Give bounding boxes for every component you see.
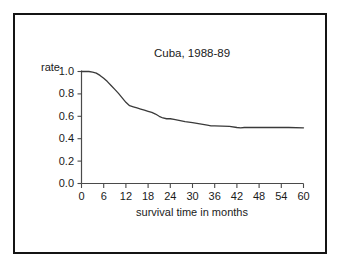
y-tick-label-2: 0.4 xyxy=(59,132,74,144)
survival-curve-line xyxy=(82,72,304,128)
x-tick-label-6: 36 xyxy=(209,190,221,202)
x-tick-label-4: 24 xyxy=(164,190,176,202)
y-tick-label-0: 0.0 xyxy=(59,177,74,189)
x-tick-label-1: 6 xyxy=(101,190,107,202)
chart-title: Cuba, 1988-89 xyxy=(154,47,230,59)
x-axis-label: survival time in months xyxy=(136,206,248,218)
x-tick-label-5: 30 xyxy=(186,190,198,202)
y-tick-label-3: 0.6 xyxy=(59,110,74,122)
y-axis-label: rate xyxy=(41,61,60,73)
x-axis-ticks xyxy=(82,184,304,189)
figure-root: Cuba, 1988-89 rate 0.0 0.2 0.4 0.6 0.8 1… xyxy=(0,0,343,269)
survival-curve-chart: Cuba, 1988-89 rate 0.0 0.2 0.4 0.6 0.8 1… xyxy=(0,0,343,269)
x-tick-label-9: 54 xyxy=(275,190,287,202)
x-tick-label-7: 42 xyxy=(231,190,243,202)
y-tick-label-1: 0.2 xyxy=(59,155,74,167)
x-tick-label-0: 0 xyxy=(78,190,84,202)
x-tick-label-10: 60 xyxy=(297,190,309,202)
x-tick-label-3: 18 xyxy=(142,190,154,202)
y-tick-label-5: 1.0 xyxy=(59,65,74,77)
y-axis-tick-labels: 0.0 0.2 0.4 0.6 0.8 1.0 xyxy=(59,65,74,189)
y-tick-label-4: 0.8 xyxy=(59,87,74,99)
x-tick-label-2: 12 xyxy=(120,190,132,202)
x-tick-label-8: 48 xyxy=(253,190,265,202)
x-axis-tick-labels: 0 6 12 18 24 30 36 42 48 54 60 xyxy=(78,190,309,202)
